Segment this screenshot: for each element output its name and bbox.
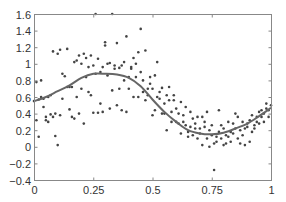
- data-point: [187, 136, 190, 139]
- data-point: [213, 169, 216, 172]
- data-point: [253, 124, 256, 127]
- data-point: [177, 112, 180, 115]
- data-point: [116, 42, 119, 45]
- data-point: [168, 86, 171, 89]
- data-point: [45, 116, 48, 119]
- data-point: [237, 137, 240, 140]
- data-point: [170, 121, 173, 124]
- y-tick-label: 1.4: [16, 25, 31, 37]
- data-point: [49, 113, 52, 116]
- data-point: [40, 79, 43, 82]
- data-point: [132, 96, 135, 99]
- data-point: [52, 116, 55, 119]
- data-point: [201, 116, 204, 119]
- data-point: [90, 54, 93, 57]
- data-point: [265, 102, 268, 105]
- data-point: [142, 91, 145, 94]
- data-point: [97, 58, 100, 61]
- data-point: [211, 124, 214, 127]
- data-point: [263, 121, 266, 124]
- data-point: [78, 54, 81, 57]
- data-point: [142, 79, 145, 82]
- plot-frame: [35, 15, 272, 181]
- data-point: [234, 112, 237, 115]
- data-point: [37, 136, 40, 139]
- data-point: [175, 107, 178, 110]
- data-point: [208, 146, 211, 149]
- data-point: [260, 109, 263, 112]
- data-point: [258, 111, 261, 114]
- data-point: [227, 121, 230, 124]
- data-point: [87, 91, 90, 94]
- data-point: [151, 87, 154, 90]
- data-point: [156, 96, 159, 99]
- x-tick-label: 0.5: [145, 184, 160, 196]
- data-point: [241, 121, 244, 124]
- data-point: [71, 116, 74, 119]
- data-point: [220, 137, 223, 140]
- data-point: [47, 121, 50, 124]
- data-point: [125, 35, 128, 38]
- data-point: [42, 106, 45, 109]
- data-point: [120, 64, 123, 67]
- data-point: [80, 87, 83, 90]
- data-point: [170, 111, 173, 114]
- data-point: [194, 127, 197, 130]
- data-point: [83, 122, 86, 125]
- data-point: [215, 136, 218, 139]
- data-point: [184, 124, 187, 127]
- data-point: [239, 142, 242, 145]
- data-point: [128, 87, 131, 90]
- data-point: [71, 86, 74, 89]
- data-point: [118, 67, 121, 70]
- data-point: [85, 57, 88, 60]
- data-point: [54, 112, 57, 115]
- data-point: [59, 48, 62, 51]
- x-tick-label: 0: [31, 184, 37, 196]
- data-point: [54, 135, 57, 138]
- data-point: [109, 107, 112, 110]
- data-point: [194, 122, 197, 125]
- data-point: [232, 122, 235, 125]
- data-point: [78, 112, 81, 115]
- data-point: [201, 144, 204, 147]
- data-point: [45, 119, 48, 122]
- y-tick-label: 0: [25, 141, 31, 153]
- data-point: [75, 59, 78, 62]
- data-point: [182, 114, 185, 117]
- data-point: [206, 111, 209, 114]
- data-point: [251, 131, 254, 134]
- data-point: [73, 117, 76, 120]
- data-point: [106, 63, 109, 66]
- data-point: [75, 96, 78, 99]
- chart: 00.250.50.751 −0.4−0.200.20.40.60.811.21…: [0, 0, 286, 202]
- data-point: [83, 53, 86, 56]
- data-point: [161, 87, 164, 90]
- data-point: [101, 111, 104, 114]
- data-point: [149, 76, 152, 79]
- data-point: [104, 41, 107, 44]
- y-tick-label: 1.2: [16, 42, 31, 54]
- data-point: [241, 134, 244, 137]
- data-point: [99, 102, 102, 105]
- data-point: [192, 134, 195, 137]
- data-point: [196, 116, 199, 119]
- data-point: [225, 134, 228, 137]
- data-point: [246, 126, 249, 129]
- data-point: [215, 141, 218, 144]
- data-point: [109, 62, 112, 65]
- scatter-points: [33, 13, 273, 172]
- y-tick-label: 0.6: [16, 92, 31, 104]
- data-point: [213, 142, 216, 145]
- y-tick-label: −0.2: [9, 158, 31, 170]
- y-tick-label: 1.6: [16, 9, 31, 21]
- data-point: [232, 132, 235, 135]
- y-tick-label: 1: [25, 58, 31, 70]
- data-point: [253, 127, 256, 130]
- data-point: [64, 75, 67, 78]
- data-point: [151, 114, 154, 117]
- data-point: [203, 126, 206, 129]
- data-point: [258, 122, 261, 125]
- data-point: [111, 89, 114, 92]
- data-point: [113, 64, 116, 67]
